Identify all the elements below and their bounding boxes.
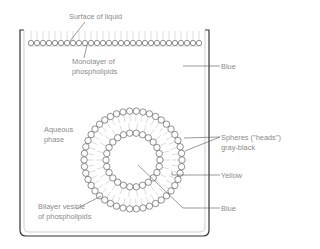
lipid-tail xyxy=(112,130,116,136)
lipid-tail xyxy=(89,171,96,173)
lipid-head xyxy=(136,40,141,45)
lipid-head xyxy=(40,40,45,45)
lipid-tail xyxy=(107,192,111,198)
lipid-head xyxy=(126,206,132,212)
label-bilayer-line1: Bilayer vesicle xyxy=(38,202,85,211)
lipid-head xyxy=(175,137,181,143)
lipid-head xyxy=(85,176,91,182)
lipid-tail xyxy=(91,142,97,145)
lipid-tail xyxy=(151,119,154,125)
lipid-head xyxy=(179,157,185,163)
lipid-head xyxy=(113,111,119,117)
lipid-tail xyxy=(112,195,115,201)
lipid-head xyxy=(107,200,113,206)
lipid-head xyxy=(172,40,177,45)
lipid-tail xyxy=(88,154,95,155)
lipid-head xyxy=(106,40,111,45)
lipid-tail xyxy=(169,176,175,179)
lipid-head xyxy=(190,40,195,45)
lipid-head xyxy=(81,150,87,156)
lipid-tail xyxy=(150,130,154,136)
lipid-tail xyxy=(141,115,142,122)
leader-spheres-inner xyxy=(185,137,220,151)
lipid-head xyxy=(83,170,89,176)
lipid-head xyxy=(88,182,94,188)
lipid-tail xyxy=(155,192,159,198)
lipid-tail xyxy=(163,131,168,135)
lipid-tail xyxy=(146,117,148,123)
lipid-tail xyxy=(141,198,142,205)
lipid-head xyxy=(154,144,160,150)
lipid-tail xyxy=(120,188,122,194)
lipid-tail xyxy=(118,197,120,203)
lipid-head xyxy=(120,182,126,188)
lipid-head xyxy=(172,182,178,188)
lipid-head xyxy=(156,150,162,156)
lipid-head xyxy=(107,113,113,119)
lipid-tail xyxy=(112,119,115,125)
lipid-tail xyxy=(105,135,110,140)
lipid-tail xyxy=(112,185,116,191)
label-blue-top: Blue xyxy=(221,62,236,71)
lipid-head xyxy=(81,163,87,169)
lipid-head xyxy=(103,157,109,163)
lipid-head xyxy=(102,197,108,203)
lipid-tail xyxy=(150,185,154,191)
lipid-tail xyxy=(169,142,175,145)
lipid-tail xyxy=(94,180,100,184)
lipid-tail xyxy=(97,167,104,169)
label-aqueous-line2: phase xyxy=(44,135,64,144)
lipid-head xyxy=(28,40,33,45)
label-surface-of-liquid: Surface of liquid xyxy=(69,12,122,21)
lipid-tail xyxy=(144,125,146,131)
lipid-head xyxy=(184,40,189,45)
lipid-tail xyxy=(89,148,96,150)
lipid-head xyxy=(94,40,99,45)
lipid-head xyxy=(58,40,63,45)
lipid-tail xyxy=(118,117,120,123)
lipid-head xyxy=(133,184,139,190)
label-aqueous-line1: Aqueous xyxy=(44,125,73,134)
lipid-head xyxy=(158,197,164,203)
lipid-head xyxy=(133,108,139,114)
lipid-head xyxy=(96,121,102,127)
lipid-tail xyxy=(172,154,179,155)
lipid-head xyxy=(163,121,169,127)
lipid-tail xyxy=(97,131,102,135)
lipid-head xyxy=(52,40,57,45)
lipid-tail xyxy=(160,127,165,132)
lipid-head xyxy=(152,113,158,119)
lipid-head xyxy=(46,40,51,45)
lipid-head xyxy=(160,40,165,45)
lipid-head xyxy=(127,184,133,190)
lipid-head xyxy=(177,170,183,176)
lipid-tail xyxy=(160,174,166,177)
lipid-head xyxy=(139,132,145,138)
lipid-tail xyxy=(172,165,179,166)
lipid-tail xyxy=(144,188,146,194)
lipid-head xyxy=(130,40,135,45)
label-spheres-line1: Spheres ("heads") xyxy=(221,133,281,142)
bilayer-vesicle xyxy=(81,108,185,212)
lipid-head xyxy=(139,182,145,188)
label-blue-bottom: Blue xyxy=(221,204,236,213)
lipid-tail xyxy=(137,190,138,197)
lipid-head xyxy=(152,200,158,206)
lipid-head xyxy=(76,40,81,45)
lipid-head xyxy=(64,40,69,45)
lipid-head xyxy=(196,40,201,45)
lipid-tail xyxy=(102,127,107,132)
lipid-head xyxy=(118,40,123,45)
lipid-head xyxy=(113,203,119,209)
lipid-head xyxy=(124,40,129,45)
lipid-head xyxy=(166,40,171,45)
lipid-head xyxy=(104,163,110,169)
leader-lines xyxy=(70,22,220,209)
lipid-head xyxy=(154,40,159,45)
lipid-head xyxy=(88,131,94,137)
lipid-tail xyxy=(97,151,104,153)
lipid-head xyxy=(148,40,153,45)
lipid-head xyxy=(157,157,163,163)
lipid-head xyxy=(142,40,147,45)
lipid-head xyxy=(82,40,87,45)
